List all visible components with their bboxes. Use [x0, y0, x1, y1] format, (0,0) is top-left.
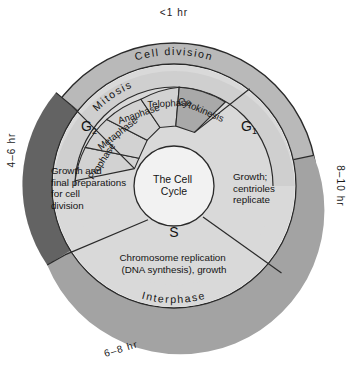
desc-s: Chromosome replication (DNA synthesis), … — [120, 252, 229, 275]
cell-cycle-diagram: Cell division Interphase Mitosis Prophas… — [0, 0, 347, 366]
label-s: S — [169, 224, 178, 240]
diagram-canvas: Cell division Interphase Mitosis Prophas… — [0, 0, 347, 366]
timing-left: 4–6 hr — [6, 133, 17, 168]
timing-top: <1 hr — [160, 7, 189, 18]
timing-right: 8–10 hr — [335, 165, 346, 207]
